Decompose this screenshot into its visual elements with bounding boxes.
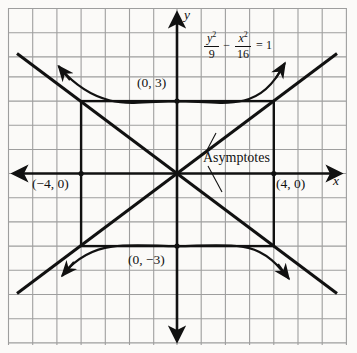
equation-fraction-1-denominator: 9 [206,47,218,62]
label-corner-right: (4, 0) [276,177,305,191]
equation-fraction-2-numerator: x2 [235,30,250,47]
label-vertex-bottom: (0, −3) [128,253,165,267]
x-axis-label: x [333,174,339,188]
equation-label: y2 9 − x2 16 = 1 [203,30,272,62]
equation-fraction-1-numerator: y2 [204,30,219,47]
hyperbola-figure: y x (0, 3) (0, −3) (−4, 0) (4, 0) Asympt… [0,0,357,353]
y-axis-label: y [184,8,190,22]
label-corner-left: (−4, 0) [32,177,69,191]
equation-exp-x: 2 [244,30,248,39]
equation-operator-minus: − [223,38,230,53]
point-marker-corner-left [79,171,84,176]
equation-right-hand-side: 1 [266,38,272,53]
point-marker-vertex-top [174,99,179,104]
label-vertex-top: (0, 3) [137,76,166,90]
equation-fraction-1: y2 9 [204,30,219,62]
equation-fraction-2: x2 16 [234,30,252,62]
point-marker-vertex-bottom [174,244,179,249]
equation-exp-y: 2 [212,30,216,39]
asymptotes-label: Asymptotes [203,151,270,165]
equation-equals-sign: = [256,38,263,53]
equation-fraction-2-denominator: 16 [234,47,252,62]
